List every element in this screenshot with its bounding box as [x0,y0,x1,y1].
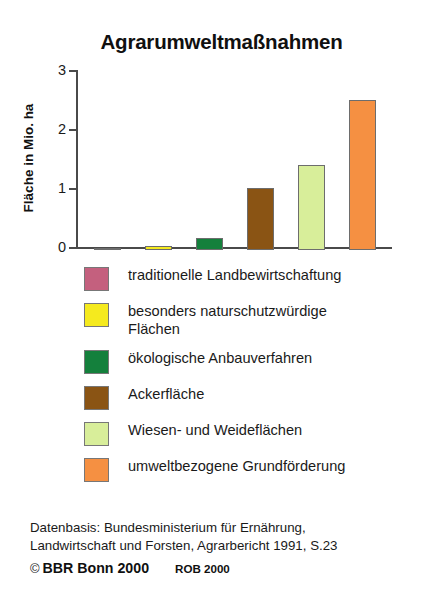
legend-label: umweltbezogene Grundförderung [128,457,345,475]
y-tick-mark [69,247,76,249]
bar-besonders-naturschutzwuerdige-flaechen [145,246,172,250]
legend-swatch-icon [84,422,109,446]
legend-swatch-icon [84,267,109,291]
y-tick-label: 0 [58,239,66,255]
legend-item: Ackerfläche [84,385,434,410]
bar-umweltbezogene-grundfoerderung [349,100,376,250]
plot-area: Fläche in Mio. ha 3210 [76,70,394,252]
y-tick-label: 2 [58,121,66,137]
x-axis-line [76,247,392,249]
chart-legend: traditionelle Landbewirtschaftungbesonde… [84,266,434,493]
copyright-text: BBR Bonn 2000 [43,560,149,576]
y-tick-mark [69,188,76,190]
bar-oekologische-anbauverfahren [196,238,223,250]
legend-label: ökologische Anbauverfahren [128,349,312,367]
chart-title: Agrarumweltmaßnahmen [0,30,443,54]
legend-item: ökologische Anbauverfahren [84,349,434,374]
legend-swatch-icon [84,303,109,327]
y-tick-mark [69,129,76,131]
source-note: Datenbasis: Bundesministerium für Ernähr… [30,519,430,555]
bar-wiesen-und-weideflaechen [298,165,325,251]
legend-item: umweltbezogene Grundförderung [84,457,434,482]
chart-figure: Agrarumweltmaßnahmen Fläche in Mio. ha 3… [0,0,443,606]
legend-label: Ackerfläche [128,385,204,403]
legend-label: besonders naturschutzwürdige Flächen [128,302,327,338]
y-tick-label: 1 [58,180,66,196]
legend-label: Wiesen- und Weideflächen [128,421,302,439]
copyright-icon: © [30,561,40,576]
credit-row: © BBR Bonn 2000 ROB 2000 [30,560,430,576]
bar-traditionelle-landbewirtschaftung [94,248,121,251]
legend-swatch-icon [84,350,109,374]
y-axis-line [76,70,78,248]
legend-swatch-icon [84,458,109,482]
y-axis-title: Fläche in Mio. ha [21,104,36,213]
rob-text: ROB 2000 [175,562,230,575]
bar-ackerflaeche [247,188,274,250]
legend-item: traditionelle Landbewirtschaftung [84,266,434,291]
legend-label: traditionelle Landbewirtschaftung [128,266,341,284]
y-tick-label: 3 [58,62,66,78]
y-tick-mark [69,70,76,72]
legend-item: besonders naturschutzwürdige Flächen [84,302,434,338]
legend-item: Wiesen- und Weideflächen [84,421,434,446]
chart-footer: Datenbasis: Bundesministerium für Ernähr… [30,519,430,576]
legend-swatch-icon [84,386,109,410]
